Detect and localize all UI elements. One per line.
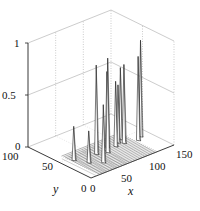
y-tick-50: 50 (42, 160, 54, 172)
surface-plot: 1 0.5 0 100 50 0 0 50 100 150 y x (0, 0, 200, 211)
y-tick-100: 100 (2, 150, 19, 162)
x-tick-100: 100 (149, 160, 166, 172)
z-tick-1: 1 (14, 37, 20, 49)
x-tick-50: 50 (121, 172, 133, 184)
x-tick-150: 150 (176, 148, 193, 160)
z-tick-0.5: 0.5 (2, 89, 16, 101)
x-tick-0: 0 (90, 182, 96, 194)
y-tick-0: 0 (81, 182, 87, 194)
x-axis-label: x (127, 184, 134, 198)
y-axis-label: y (52, 182, 59, 196)
